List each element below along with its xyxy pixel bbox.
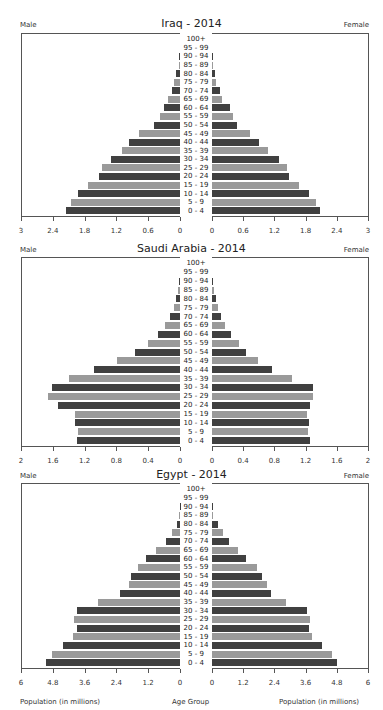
female-bar	[212, 547, 238, 554]
female-tick-label: 0.6	[231, 227, 255, 235]
female-axis-tick	[368, 217, 369, 221]
male-tick-label: 1.2	[73, 457, 97, 465]
age-group-label: 55 - 59	[180, 563, 212, 571]
center-axis-label: Age Group	[172, 698, 209, 706]
female-tick-label: 0.4	[231, 457, 255, 465]
female-bar	[212, 437, 310, 444]
age-group-label: 35 - 39	[180, 375, 212, 383]
female-bar	[212, 573, 262, 580]
female-bar	[212, 419, 309, 426]
female-label: Female	[344, 21, 369, 29]
female-bar	[212, 521, 218, 528]
female-bar	[212, 599, 286, 606]
female-bar	[212, 79, 216, 86]
female-axis-tick	[274, 217, 275, 221]
male-bar	[170, 313, 180, 320]
male-bar	[94, 366, 180, 373]
male-bar	[172, 529, 180, 536]
female-tick-label: 1.6	[325, 457, 349, 465]
female-bar	[212, 139, 259, 146]
female-tick-label: 4.8	[325, 679, 349, 687]
female-bar	[212, 555, 246, 562]
male-tick-label: 0	[168, 227, 192, 235]
female-bar	[212, 402, 310, 409]
age-group-label: 40 - 44	[180, 138, 212, 146]
age-group-label: 55 - 59	[180, 112, 212, 120]
age-group-label: 10 - 14	[180, 641, 212, 649]
male-bar	[120, 590, 180, 597]
age-group-label: 65 - 69	[180, 546, 212, 554]
female-axis-tick	[274, 447, 275, 451]
male-tick-label: 1.8	[73, 227, 97, 235]
age-group-label: 65 - 69	[180, 95, 212, 103]
female-tick-label: 3.6	[294, 679, 318, 687]
male-bar	[139, 130, 180, 137]
male-axis-tick	[53, 669, 54, 673]
age-group-label: 50 - 54	[180, 121, 212, 129]
female-bar	[212, 384, 313, 391]
female-bar	[212, 322, 225, 329]
male-bar	[154, 122, 181, 129]
male-bar	[77, 607, 180, 614]
female-bar	[212, 349, 246, 356]
female-bar	[212, 96, 222, 103]
male-bar	[158, 331, 180, 338]
age-group-label: 35 - 39	[180, 147, 212, 155]
female-bar	[212, 122, 237, 129]
age-group-label: 30 - 34	[180, 155, 212, 163]
male-axis-tick	[85, 447, 86, 451]
age-group-label: 0 - 4	[180, 207, 212, 215]
female-bar	[212, 590, 271, 597]
male-bar	[71, 199, 180, 206]
male-bar	[78, 428, 180, 435]
age-group-label: 75 - 79	[180, 529, 212, 537]
male-bar	[69, 375, 180, 382]
age-group-label: 75 - 79	[180, 78, 212, 86]
age-group-label: 60 - 64	[180, 104, 212, 112]
right-x-axis-label: Population (in millions)	[279, 698, 359, 706]
age-group-label: 20 - 24	[180, 401, 212, 409]
female-tick-label: 6	[356, 679, 380, 687]
male-bar	[131, 573, 180, 580]
age-group-label: 5 - 9	[180, 650, 212, 658]
age-group-label: 80 - 84	[180, 70, 212, 78]
age-group-label: 55 - 59	[180, 339, 212, 347]
male-bar	[135, 349, 180, 356]
age-group-label: 10 - 14	[180, 419, 212, 427]
male-tick-label: 6	[9, 679, 33, 687]
female-bar	[212, 70, 215, 77]
female-bar	[212, 147, 268, 154]
male-bar	[75, 419, 180, 426]
age-group-label: 85 - 89	[180, 61, 212, 69]
age-group-label: 30 - 34	[180, 607, 212, 615]
male-tick-label: 0.6	[136, 227, 160, 235]
age-group-label: 20 - 24	[180, 624, 212, 632]
age-group-label: 90 - 94	[180, 277, 212, 285]
male-tick-label: 0	[168, 679, 192, 687]
male-tick-label: 2.4	[41, 227, 65, 235]
male-axis-tick	[180, 669, 181, 673]
male-bar	[160, 113, 180, 120]
female-bar	[212, 659, 337, 666]
male-axis-tick	[85, 217, 86, 221]
female-bar	[212, 366, 272, 373]
female-axis-tick	[212, 217, 213, 221]
male-tick-label: 0.8	[104, 457, 128, 465]
male-tick-label: 2	[9, 457, 33, 465]
male-axis-tick	[180, 217, 181, 221]
age-group-label: 5 - 9	[180, 428, 212, 436]
male-bar	[111, 156, 180, 163]
age-group-label: 80 - 84	[180, 295, 212, 303]
female-tick-label: 1.2	[294, 457, 318, 465]
male-axis-tick	[116, 669, 117, 673]
age-group-label: 40 - 44	[180, 589, 212, 597]
female-bar	[212, 182, 299, 189]
male-axis-tick	[148, 217, 149, 221]
left-x-axis-label: Population (in millions)	[20, 698, 100, 706]
male-bar	[52, 651, 180, 658]
age-group-label: 60 - 64	[180, 330, 212, 338]
female-bar	[212, 113, 233, 120]
male-bar	[73, 633, 180, 640]
age-group-label: 0 - 4	[180, 659, 212, 667]
age-group-label: 15 - 19	[180, 633, 212, 641]
